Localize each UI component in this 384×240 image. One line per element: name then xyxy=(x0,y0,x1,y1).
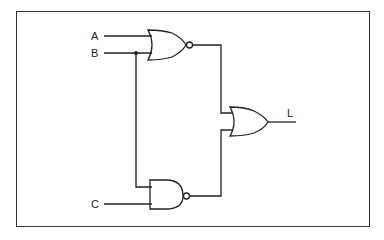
nand-bubble xyxy=(184,193,190,199)
nand-gate xyxy=(150,180,183,209)
logic-circuit: A B C L xyxy=(0,0,384,240)
nor-bubble xyxy=(187,42,193,48)
label-a: A xyxy=(91,30,99,42)
wire-b-branch xyxy=(136,53,152,187)
wire-nand-out xyxy=(190,130,233,196)
wire-nor-out xyxy=(193,45,233,113)
or-gate xyxy=(230,107,268,136)
junction-dot xyxy=(134,51,138,55)
label-output-l: L xyxy=(287,107,293,119)
label-b: B xyxy=(91,47,98,59)
label-c: C xyxy=(91,198,99,210)
nor-gate xyxy=(148,30,186,60)
